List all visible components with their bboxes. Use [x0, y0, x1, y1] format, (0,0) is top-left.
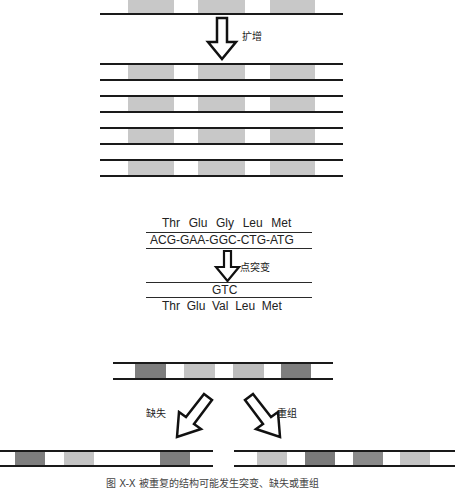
- strand-line: [0, 465, 213, 467]
- band-gray: [128, 97, 174, 111]
- strand-line: [100, 143, 343, 145]
- figure-caption: 图 X-X 被重复的结构可能发生突变、缺失或重组: [106, 475, 319, 490]
- down-arrow-icon: [215, 250, 241, 282]
- band-light: [64, 452, 94, 466]
- band-gray: [270, 97, 315, 111]
- band-dark: [305, 452, 335, 466]
- band-gray: [128, 65, 174, 79]
- band-gray: [198, 0, 245, 14]
- band-light: [184, 364, 215, 378]
- sequence-line: [146, 297, 312, 298]
- band-light: [233, 364, 264, 378]
- band-gray: [128, 0, 174, 14]
- down-left-arrow-icon: [170, 392, 214, 440]
- band-dark: [135, 364, 166, 378]
- strand-line: [100, 13, 343, 15]
- band-dark: [353, 452, 383, 466]
- recombination-label: 重组: [277, 405, 297, 420]
- band-gray: [128, 129, 174, 143]
- mutated-codon: GTC: [212, 283, 237, 297]
- strand-line: [100, 111, 343, 113]
- amino-acids-after: Thr Glu Val Leu Met: [162, 299, 282, 313]
- amino-acids-before: Thr Glu Gly Leu Met: [162, 216, 291, 230]
- down-arrow-icon: [207, 17, 237, 61]
- point-mutation-label: 点突变: [240, 259, 270, 274]
- band-dark: [160, 452, 190, 466]
- strand-line: [113, 378, 333, 380]
- band-gray: [128, 161, 174, 175]
- band-gray: [198, 161, 245, 175]
- band-gray: [270, 0, 315, 14]
- deletion-label: 缺失: [146, 405, 166, 420]
- amplification-label: 扩增: [242, 28, 262, 43]
- band-gray: [198, 97, 245, 111]
- band-light: [257, 452, 287, 466]
- band-light: [400, 452, 430, 466]
- band-gray: [270, 65, 315, 79]
- band-gray: [270, 129, 315, 143]
- strand-line: [234, 465, 455, 467]
- band-gray: [198, 129, 245, 143]
- band-gray: [198, 65, 245, 79]
- sequence-line: [146, 248, 312, 249]
- band-dark: [15, 452, 45, 466]
- strand-line: [100, 175, 343, 177]
- strand-line: [100, 79, 343, 81]
- band-dark: [281, 364, 311, 378]
- codon-sequence-before: ACG-GAA-GGC-CTG-ATG: [150, 233, 294, 247]
- band-gray: [270, 161, 315, 175]
